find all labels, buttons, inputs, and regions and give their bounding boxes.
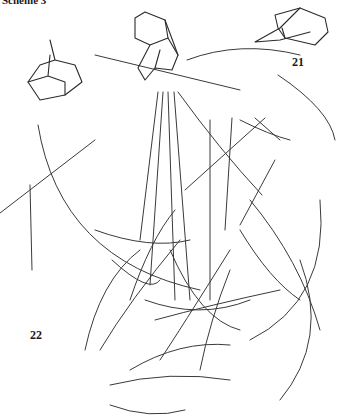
molecule-2 (28, 40, 82, 100)
molecule-21 (255, 8, 328, 45)
compound-label-22: 22 (30, 328, 42, 343)
compound-label-21: 21 (292, 55, 304, 70)
network-edges (0, 49, 335, 414)
